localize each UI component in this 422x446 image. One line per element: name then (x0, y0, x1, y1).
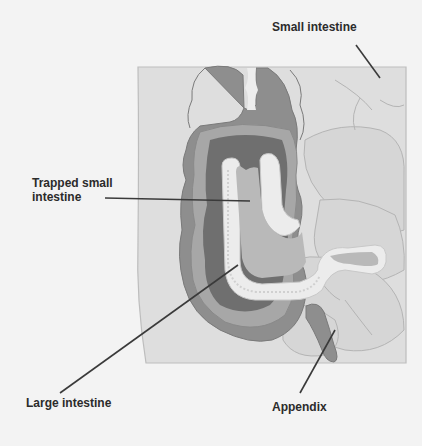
label-trapped-small-intestine: Trapped small intestine (32, 176, 152, 204)
label-appendix: Appendix (272, 400, 327, 414)
anatomy-illustration (0, 0, 422, 446)
label-large-intestine: Large intestine (26, 396, 111, 410)
label-small-intestine: Small intestine (272, 20, 357, 34)
intussusception-diagram: Small intestine Trapped small intestine … (0, 0, 422, 446)
